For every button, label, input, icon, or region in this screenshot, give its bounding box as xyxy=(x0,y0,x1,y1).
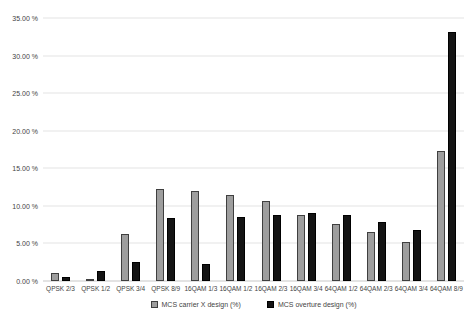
plot-area: QPSK 2/3QPSK 1/2QPSK 3/4QPSK 8/916QAM 1/… xyxy=(43,18,464,281)
legend-swatch-icon xyxy=(151,301,158,308)
y-axis-tick-label: 15.00 % xyxy=(12,165,38,172)
bar-series-2 xyxy=(308,213,316,281)
bar-series-1 xyxy=(191,191,199,281)
bar-chart: QPSK 2/3QPSK 1/2QPSK 3/4QPSK 8/916QAM 1/… xyxy=(0,0,470,323)
bar-series-2 xyxy=(413,230,421,281)
legend-label: MCS carrier X design (%) xyxy=(162,301,241,308)
x-axis-category-label: QPSK 2/3 xyxy=(46,285,75,292)
x-axis-category-label: 64QAM 2/3 xyxy=(360,285,393,292)
bar-series-1 xyxy=(156,189,164,281)
x-axis-category-label: QPSK 3/4 xyxy=(116,285,145,292)
bar-group: 64QAM 2/3 xyxy=(367,18,386,281)
x-axis-category-label: 64QAM 3/4 xyxy=(395,285,428,292)
bar-series-2 xyxy=(448,32,456,281)
bar-series-1 xyxy=(367,232,375,281)
x-axis-category-label: QPSK 1/2 xyxy=(81,285,110,292)
x-axis-category-label: 64QAM 1/2 xyxy=(325,285,358,292)
bar-series-1 xyxy=(51,273,59,281)
legend-label: MCS overture design (%) xyxy=(278,301,357,308)
legend: MCS carrier X design (%)MCS overture des… xyxy=(43,301,464,308)
bar-groups: QPSK 2/3QPSK 1/2QPSK 3/4QPSK 8/916QAM 1/… xyxy=(43,18,464,281)
y-axis-tick-label: 10.00 % xyxy=(12,202,38,209)
bar-series-2 xyxy=(202,264,210,281)
y-axis-tick-label: 5.00 % xyxy=(16,240,38,247)
bar-group: QPSK 2/3 xyxy=(51,18,70,281)
bar-series-1 xyxy=(297,215,305,281)
bar-group: 64QAM 1/2 xyxy=(332,18,351,281)
x-axis-category-label: 16QAM 1/3 xyxy=(184,285,217,292)
y-axis-tick-label: 20.00 % xyxy=(12,127,38,134)
legend-swatch-icon xyxy=(267,301,274,308)
bar-series-1 xyxy=(332,224,340,281)
y-axis-tick-label: 30.00 % xyxy=(12,52,38,59)
bar-series-2 xyxy=(132,262,140,281)
y-axis-tick-label: 35.00 % xyxy=(12,15,38,22)
x-axis-category-label: 16QAM 1/2 xyxy=(219,285,252,292)
bar-series-2 xyxy=(343,215,351,281)
bar-group: QPSK 1/2 xyxy=(86,18,105,281)
bar-series-1 xyxy=(226,195,234,281)
bar-series-1 xyxy=(437,151,445,281)
x-axis-category-label: 16QAM 2/3 xyxy=(255,285,288,292)
bar-group: 64QAM 8/9 xyxy=(437,18,456,281)
bar-series-2 xyxy=(237,217,245,281)
bar-series-2 xyxy=(167,218,175,281)
bar-series-1 xyxy=(86,279,94,281)
bar-series-2 xyxy=(97,271,105,281)
x-axis-category-label: 64QAM 8/9 xyxy=(430,285,463,292)
y-axis-tick-label: 0.00 % xyxy=(16,278,38,285)
bar-series-2 xyxy=(273,215,281,281)
bar-group: QPSK 3/4 xyxy=(121,18,140,281)
bar-group: 16QAM 1/3 xyxy=(191,18,210,281)
bar-group: 16QAM 3/4 xyxy=(297,18,316,281)
bar-series-1 xyxy=(262,201,270,281)
bar-group: 16QAM 1/2 xyxy=(226,18,245,281)
x-axis-category-label: 16QAM 3/4 xyxy=(290,285,323,292)
bar-group: 16QAM 2/3 xyxy=(262,18,281,281)
legend-item: MCS overture design (%) xyxy=(267,301,357,308)
y-axis-tick-label: 25.00 % xyxy=(12,90,38,97)
bar-series-1 xyxy=(402,242,410,281)
bar-series-2 xyxy=(62,277,70,282)
bar-group: 64QAM 3/4 xyxy=(402,18,421,281)
legend-item: MCS carrier X design (%) xyxy=(151,301,241,308)
bar-series-1 xyxy=(121,234,129,281)
x-axis-category-label: QPSK 8/9 xyxy=(151,285,180,292)
bar-series-2 xyxy=(378,222,386,281)
bar-group: QPSK 8/9 xyxy=(156,18,175,281)
